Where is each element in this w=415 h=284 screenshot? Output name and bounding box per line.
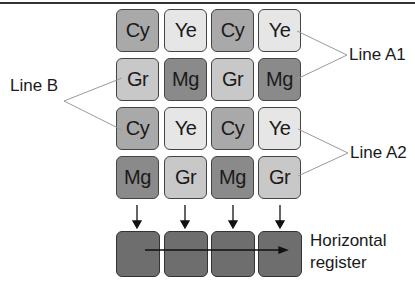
arrow-head-icon xyxy=(229,221,237,228)
line-a2-pointer-top xyxy=(298,129,348,153)
label-line-b: Line B xyxy=(10,76,58,96)
line-a1-pointer-top xyxy=(297,31,347,55)
line-b-pointer-bottom xyxy=(64,101,122,130)
arrow-head-icon xyxy=(181,221,189,228)
label-register: register xyxy=(310,253,367,273)
label-line-a1: Line A1 xyxy=(349,45,406,65)
arrow-head-icon xyxy=(279,247,287,253)
label-line-a2: Line A2 xyxy=(350,143,407,163)
line-a2-pointer-bottom xyxy=(298,153,348,176)
label-horizontal: Horizontal xyxy=(310,231,387,251)
arrow-head-icon xyxy=(276,221,284,228)
line-a1-pointer-bottom xyxy=(297,55,347,79)
line-b-pointer-top xyxy=(64,78,122,101)
arrow-head-icon xyxy=(133,221,141,228)
